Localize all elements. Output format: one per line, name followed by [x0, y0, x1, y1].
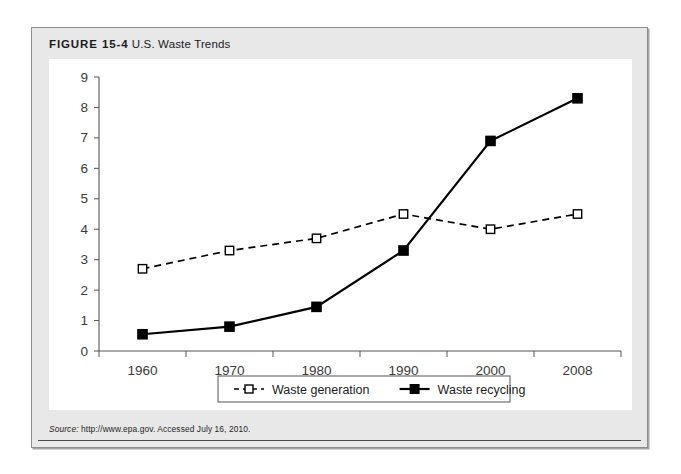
y-tick-label: 0	[80, 344, 88, 359]
x-tick-label: 1960	[127, 363, 157, 378]
series-line-2	[143, 98, 578, 334]
y-tick-label: 7	[80, 130, 88, 145]
x-axis-ticks: 196019701980199020002008	[99, 351, 621, 378]
chart-plate: 0123456789 196019701980199020002008 Wast…	[49, 59, 632, 410]
axes	[99, 77, 621, 351]
y-tick-label: 4	[80, 222, 88, 237]
figure-footer: Source: http://www.epa.gov. Accessed Jul…	[32, 418, 647, 448]
data-point-marker	[399, 210, 407, 218]
source-note: Source: http://www.epa.gov. Accessed Jul…	[49, 424, 250, 434]
figure-number: FIGURE 15-4	[49, 38, 129, 50]
data-point-marker	[225, 322, 234, 331]
figure-panel: FIGURE 15-4 U.S. Waste Trends 0123456789…	[31, 27, 648, 448]
data-point-marker	[138, 265, 146, 273]
y-tick-label: 3	[80, 252, 88, 267]
data-point-marker	[486, 136, 495, 145]
page-title: U.S. Waste Trends	[132, 38, 231, 50]
series-line-1	[143, 214, 578, 269]
y-tick-label: 1	[80, 313, 88, 328]
x-tick-label: 2008	[562, 363, 592, 378]
series-layer	[138, 94, 582, 339]
legend-marker-1	[245, 385, 253, 393]
legend-marker-2	[410, 385, 419, 394]
data-point-marker	[312, 234, 320, 242]
data-point-marker	[312, 302, 321, 311]
figure-caption: FIGURE 15-4 U.S. Waste Trends	[49, 37, 230, 51]
y-tick-label: 5	[80, 191, 88, 206]
y-tick-label: 6	[80, 161, 88, 176]
data-point-marker	[225, 246, 233, 254]
data-point-marker	[486, 225, 494, 233]
legend-label-2: Waste recycling	[438, 383, 526, 397]
source-text: http://www.epa.gov. Accessed July 16, 20…	[79, 424, 251, 434]
data-point-marker	[399, 246, 408, 255]
legend-label-1: Waste generation	[272, 383, 370, 397]
source-label: Source:	[49, 424, 79, 434]
footer-divider	[38, 440, 641, 441]
data-point-marker	[138, 330, 147, 339]
data-point-marker	[573, 210, 581, 218]
y-axis-ticks: 0123456789	[80, 70, 99, 359]
y-tick-label: 9	[80, 70, 88, 85]
y-tick-label: 8	[80, 100, 88, 115]
waste-trends-line-chart: 0123456789 196019701980199020002008 Wast…	[49, 59, 632, 410]
chart-legend: Waste generationWaste recycling	[218, 376, 525, 402]
y-tick-label: 2	[80, 283, 88, 298]
data-point-marker	[573, 94, 582, 103]
